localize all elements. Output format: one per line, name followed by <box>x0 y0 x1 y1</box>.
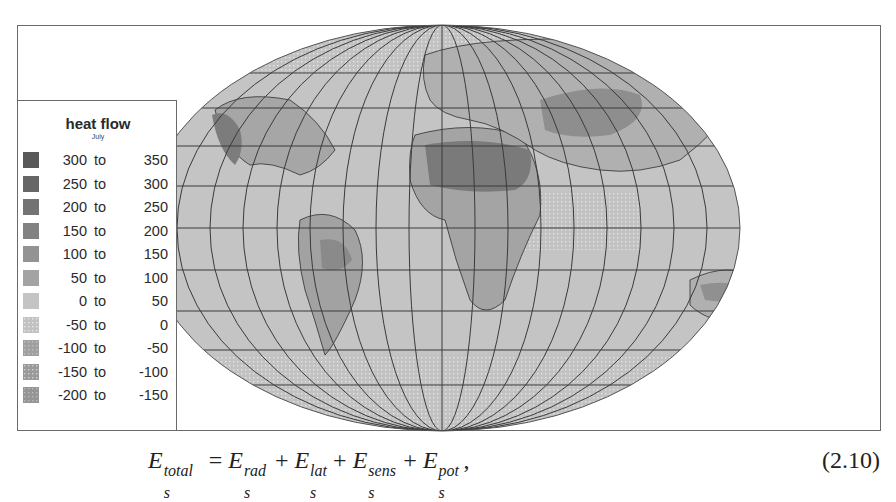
eq-plus: + <box>333 447 347 473</box>
legend-swatch <box>23 340 39 356</box>
legend-item: -50 to 0 <box>22 316 172 334</box>
legend-range-from: -100 <box>58 339 87 357</box>
legend-range-to-word: to <box>94 269 106 287</box>
eq-term: Elats <box>294 447 309 474</box>
eq-base: E <box>353 447 368 473</box>
eq-sub: s <box>244 484 250 502</box>
eq-sub: s <box>439 484 445 502</box>
legend-range-to: -150 <box>139 386 168 404</box>
map-legend: heat flow July 300 to 350 250 to 300 200… <box>17 100 177 431</box>
eq-lhs: Etotals <box>148 447 163 474</box>
eq-base: E <box>423 447 438 473</box>
energy-balance-equation: Etotals= Erads+ Elats+ Esenss+ Epots, <box>148 447 470 474</box>
eq-plus: + <box>403 447 417 473</box>
legend-swatch <box>23 199 39 215</box>
legend-swatch <box>23 293 39 309</box>
legend-range-from: 0 <box>79 292 87 310</box>
legend-range-to-word: to <box>94 245 106 263</box>
legend-item: -200 to -150 <box>22 386 172 404</box>
legend-range-to: -100 <box>139 363 168 381</box>
legend-range-to: 350 <box>144 151 168 169</box>
eq-base: E <box>228 447 243 473</box>
eq-comma: , <box>464 447 470 473</box>
legend-range-to-word: to <box>94 222 106 240</box>
legend-subtitle: July <box>18 133 178 140</box>
legend-item: -150 to -100 <box>22 363 172 381</box>
legend-swatch <box>23 387 39 403</box>
eq-term: Erads <box>228 447 243 474</box>
legend-range-to: 250 <box>144 198 168 216</box>
eq-sup: rad <box>244 462 266 480</box>
legend-item: 0 to 50 <box>22 292 172 310</box>
legend-range-to-word: to <box>94 175 106 193</box>
legend-range-to: 200 <box>144 222 168 240</box>
legend-range-from: -50 <box>66 316 87 334</box>
eq-equals: = <box>209 447 223 473</box>
legend-range-to-word: to <box>94 339 106 357</box>
legend-title: heat flow <box>18 115 178 132</box>
legend-item: 300 to 350 <box>22 151 172 169</box>
legend-swatch <box>23 246 39 262</box>
legend-range-to-word: to <box>94 292 106 310</box>
eq-term: Epots <box>423 447 438 474</box>
legend-range-to: 100 <box>144 269 168 287</box>
legend-range-to: 300 <box>144 175 168 193</box>
legend-range-to: 0 <box>160 316 168 334</box>
legend-item: -100 to -50 <box>22 339 172 357</box>
legend-range-from: 50 <box>71 269 87 287</box>
legend-item: 200 to 250 <box>22 198 172 216</box>
eq-plus: + <box>275 447 289 473</box>
eq-sup: sens <box>368 462 396 480</box>
legend-item: 150 to 200 <box>22 222 172 240</box>
legend-item: 50 to 100 <box>22 269 172 287</box>
legend-range-from: -150 <box>58 363 87 381</box>
eq-sup: pot <box>439 462 459 480</box>
legend-range-from: 100 <box>63 245 87 263</box>
legend-range-from: 200 <box>63 198 87 216</box>
legend-swatch <box>23 270 39 286</box>
legend-range-from: -200 <box>58 386 87 404</box>
equation-number: (2.10) <box>822 447 880 474</box>
eq-base: E <box>294 447 309 473</box>
legend-range-to-word: to <box>94 316 106 334</box>
legend-range-from: 300 <box>63 151 87 169</box>
legend-item: 250 to 300 <box>22 175 172 193</box>
legend-range-to-word: to <box>94 386 106 404</box>
eq-sup: lat <box>310 462 327 480</box>
eq-sub: s <box>164 484 170 502</box>
legend-swatch <box>23 364 39 380</box>
legend-range-to-word: to <box>94 363 106 381</box>
legend-range-to: -50 <box>147 339 168 357</box>
legend-range-from: 150 <box>63 222 87 240</box>
legend-swatch <box>23 176 39 192</box>
legend-swatch <box>23 152 39 168</box>
eq-base: E <box>148 447 163 473</box>
legend-range-to-word: to <box>94 198 106 216</box>
legend-item: 100 to 150 <box>22 245 172 263</box>
legend-swatch <box>23 317 39 333</box>
eq-sub: s <box>310 484 316 502</box>
eq-sup: total <box>164 462 193 480</box>
legend-swatch <box>23 223 39 239</box>
legend-range-to-word: to <box>94 151 106 169</box>
eq-sub: s <box>368 484 374 502</box>
legend-range-to: 150 <box>144 245 168 263</box>
legend-range-to: 50 <box>152 292 168 310</box>
eq-term: Esenss <box>353 447 368 474</box>
legend-range-from: 250 <box>63 175 87 193</box>
